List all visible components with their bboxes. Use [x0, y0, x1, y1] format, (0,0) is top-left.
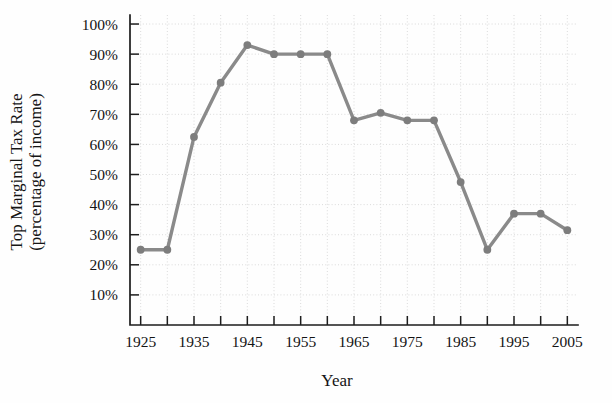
- x-axis-tick-label: 1955: [285, 333, 316, 350]
- y-axis-tick-label: 70%: [90, 106, 119, 123]
- x-axis-title: Year: [321, 371, 353, 390]
- y-axis-tick-label: 20%: [90, 256, 119, 273]
- data-point: [510, 210, 518, 218]
- line-chart: 192519351945195519651975198519952005 10%…: [0, 0, 612, 403]
- y-axis-tick-label: 30%: [90, 226, 119, 243]
- data-point: [270, 50, 278, 58]
- data-point: [430, 116, 438, 124]
- tax-rate-series: [141, 45, 568, 250]
- y-axis-tick-label: 90%: [90, 46, 119, 63]
- y-axis-tick-label: 100%: [82, 16, 118, 33]
- x-axis-tick-labels: 192519351945195519651975198519952005: [125, 333, 583, 350]
- data-point: [190, 133, 198, 141]
- x-axis-tick-label: 1945: [232, 333, 263, 350]
- x-axis-tick-label: 1965: [339, 333, 370, 350]
- chart-gridlines: [130, 15, 578, 325]
- data-point: [163, 246, 171, 254]
- y-axis-title-line1: Top Marginal Tax Rate: [7, 93, 26, 250]
- y-axis-tick-label: 40%: [90, 196, 119, 213]
- x-axis-tick-label: 2005: [552, 333, 583, 350]
- data-point: [217, 79, 225, 87]
- data-point: [537, 210, 545, 218]
- x-axis-tick-label: 1975: [392, 333, 423, 350]
- x-axis-tick-label: 1925: [125, 333, 156, 350]
- y-axis-tick-label: 60%: [90, 136, 119, 153]
- data-point: [563, 226, 571, 234]
- data-point: [457, 178, 465, 186]
- series-path: [141, 45, 568, 250]
- data-point: [350, 116, 358, 124]
- x-axis-tick-label: 1985: [445, 333, 476, 350]
- y-axis-tick-label: 10%: [90, 286, 119, 303]
- data-point: [137, 246, 145, 254]
- chart-axes: [130, 15, 578, 325]
- y-axis-tick-labels: 10%20%30%40%50%60%70%80%90%100%: [82, 16, 118, 304]
- y-axis-title-line2: (percentage of income): [26, 93, 45, 251]
- chart-figure: 192519351945195519651975198519952005 10%…: [0, 0, 612, 403]
- axis-spines: [130, 15, 578, 325]
- data-point: [403, 116, 411, 124]
- x-axis-tick-label: 1995: [499, 333, 530, 350]
- x-axis-tick-label: 1935: [179, 333, 210, 350]
- y-axis-tick-label: 50%: [90, 166, 119, 183]
- data-point: [243, 41, 251, 49]
- data-point: [483, 246, 491, 254]
- data-point: [323, 50, 331, 58]
- y-axis-tick-label: 80%: [90, 76, 119, 93]
- data-point: [297, 50, 305, 58]
- data-point: [377, 109, 385, 117]
